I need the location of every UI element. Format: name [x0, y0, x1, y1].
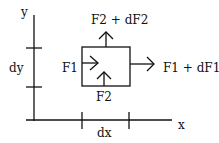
arrow-up-icon	[99, 32, 113, 47]
y-axis-label: y	[20, 5, 28, 19]
force-right-label: F1 + dF1	[163, 61, 219, 75]
arrow-up-icon	[97, 72, 111, 86]
x-axis-label: x	[178, 118, 185, 132]
element-box	[82, 47, 130, 86]
force-top-label: F2 + dF2	[91, 13, 148, 27]
arrow-right-icon	[82, 56, 98, 70]
arrow-right-icon	[130, 57, 154, 71]
force-bottom-label: F2	[96, 90, 112, 104]
dx-label: dx	[97, 126, 112, 140]
force-balance-diagram: y x dy dx F1 F1 + dF1 F2 F2 + dF2	[0, 0, 219, 143]
force-left-label: F1	[62, 61, 78, 75]
dy-label: dy	[9, 61, 24, 75]
